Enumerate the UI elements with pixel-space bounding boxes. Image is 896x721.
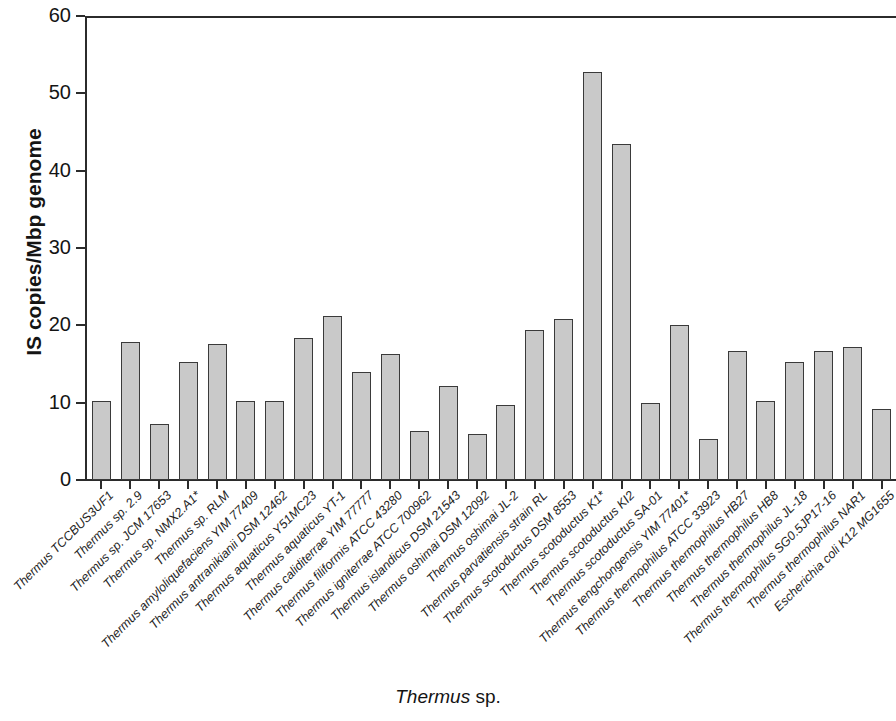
x-axis-tick-mark [100,481,102,489]
x-axis-tick-mark [881,481,883,489]
x-axis-title: Thermus sp. [0,686,896,708]
bar [150,424,169,480]
x-axis-tick-mark [707,481,709,489]
x-axis-tick-mark [418,481,420,489]
x-axis-tick-labels: Thermus TCCBUS3UF1Thermus sp. 2.9Thermus… [0,489,896,664]
y-axis-tick-mark [76,247,85,249]
x-axis-tick-mark [447,481,449,489]
bar [756,401,775,480]
bar [92,401,111,480]
x-axis-tick-mark [823,481,825,489]
x-axis-tick-mark [389,481,391,489]
bar [352,372,371,480]
x-axis-tick-mark [158,481,160,489]
y-axis-tick-mark [76,324,85,326]
y-axis-tick-label: 50 [49,80,71,104]
x-axis-tick-mark [649,481,651,489]
x-axis-tick-mark [129,481,131,489]
bar [583,72,602,480]
bar [323,316,342,480]
bar [699,439,718,480]
x-axis-tick-mark [765,481,767,489]
x-axis-tick-mark [332,481,334,489]
bar [612,144,631,480]
y-axis-title: IS copies/Mbp genome [22,12,46,472]
bar [843,347,862,480]
x-axis-tick-mark [303,481,305,489]
bars-group [87,16,896,480]
bar [496,405,515,480]
bar [728,351,747,480]
x-axis-tick-mark [736,481,738,489]
bar [294,338,313,480]
x-axis-tick-mark [245,481,247,489]
x-axis-tick-mark [794,481,796,489]
bar [381,354,400,480]
y-axis-tick-mark [76,170,85,172]
y-axis-tick-label: 60 [49,3,71,27]
x-axis-tick-mark [563,481,565,489]
bar [785,362,804,480]
bar-chart-figure: IS copies/Mbp genome 0102030405060 Therm… [0,0,896,721]
bar [872,409,891,480]
bar [439,386,458,480]
x-axis-tick-mark [534,481,536,489]
bar [208,344,227,480]
bar [525,330,544,480]
x-axis-tick-mark [360,481,362,489]
x-axis-tick-mark [476,481,478,489]
bar [814,351,833,480]
bar [670,325,689,480]
y-axis-tick-label: 20 [49,312,71,336]
y-axis-tick-label: 10 [49,390,71,414]
x-axis-tick-mark [187,481,189,489]
y-axis-tick-label: 40 [49,158,71,182]
bar [641,403,660,480]
bar [236,401,255,480]
bar [554,319,573,480]
x-axis-title-suffix: sp. [470,686,501,707]
bar [468,434,487,480]
x-axis-tick-mark [621,481,623,489]
bar [265,401,284,480]
bar [410,431,429,480]
y-axis-tick-mark [76,15,85,17]
x-axis-ticks [87,481,896,489]
x-axis-tick-mark [592,481,594,489]
y-axis-tick-mark [76,92,85,94]
x-axis-tick-mark [852,481,854,489]
y-axis-tick-label: 30 [49,235,71,259]
y-axis-tick-mark [76,479,85,481]
y-axis-tick-mark [76,402,85,404]
x-axis-tick-mark [216,481,218,489]
bar [179,362,198,480]
x-axis-tick-mark [274,481,276,489]
x-axis-tick-mark [678,481,680,489]
x-axis-title-genus: Thermus [395,686,470,707]
x-axis-tick-mark [505,481,507,489]
bar [121,342,140,480]
y-axis-tick-label: 0 [60,467,71,491]
